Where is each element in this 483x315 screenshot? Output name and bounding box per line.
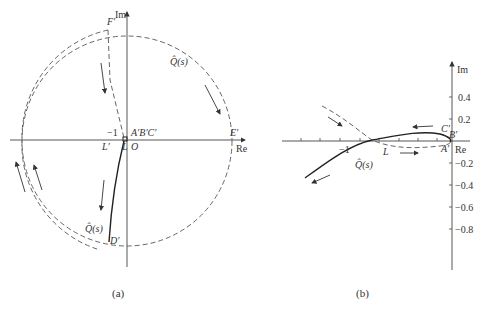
arrow-b-bottomleft	[312, 175, 330, 183]
point-o-label: O	[131, 141, 138, 152]
arrow-a-left2	[34, 165, 42, 190]
point-l-prime-label: L′	[101, 141, 111, 152]
curve-label-a-top: Q̂(s)	[170, 55, 188, 68]
nyquist-figure: Im Re F′ E′ A′B′C′ −1 L′ L O D′ Q̂(s) Q̂…	[0, 0, 483, 315]
dashed-line-f-to-origin	[108, 30, 124, 138]
solid-curve-a	[109, 141, 124, 242]
panel-a: Im Re F′ E′ A′B′C′ −1 L′ L O D′ Q̂(s) Q̂…	[10, 9, 248, 300]
y-tick-neg0.6: −0.6	[455, 202, 473, 213]
y-tick-0.4: 0.4	[458, 92, 471, 103]
im-label-b: Im	[457, 64, 468, 75]
y-tick-neg0.2: −0.2	[455, 158, 473, 169]
caption-a: (a)	[112, 287, 125, 300]
re-label-a: Re	[236, 143, 248, 154]
point-l-label-a: L	[121, 141, 128, 152]
re-label-b: Re	[455, 144, 467, 155]
point-e-label: E′	[229, 127, 239, 138]
arrow-a-topleft	[101, 63, 105, 93]
point-a-label: A′	[440, 143, 450, 154]
im-label-a: Im	[115, 9, 126, 20]
arrow-a-topright	[205, 85, 220, 114]
curve-label-b: Q̂(s)	[355, 158, 373, 171]
arrow-a-bottom	[101, 180, 104, 210]
y-tick-0.2: 0.2	[458, 114, 471, 125]
y-tick-neg0.4: −0.4	[455, 180, 473, 191]
arrow-b-top	[413, 126, 433, 127]
x-tick-minus-one-b: −1	[339, 144, 350, 155]
point-f-label: F′	[106, 16, 116, 27]
caption-b: (b)	[356, 287, 369, 300]
tick-minus-one-a: −1	[107, 127, 118, 138]
curve-label-a-bottom: Q̂(s)	[85, 222, 103, 235]
panel-b: Im Re −1 0.4 0.2 −0.2 −0.4 −0.6 −0.8 C′ …	[282, 62, 473, 300]
point-l-label-b: L	[382, 146, 389, 157]
point-b-label: B′	[449, 129, 458, 140]
arrow-b-topleft	[328, 117, 342, 126]
solid-curve-b	[305, 133, 451, 178]
point-d-label: D′	[109, 235, 120, 246]
point-abc-label: A′B′C′	[130, 127, 157, 138]
y-tick-neg0.8: −0.8	[455, 224, 473, 235]
